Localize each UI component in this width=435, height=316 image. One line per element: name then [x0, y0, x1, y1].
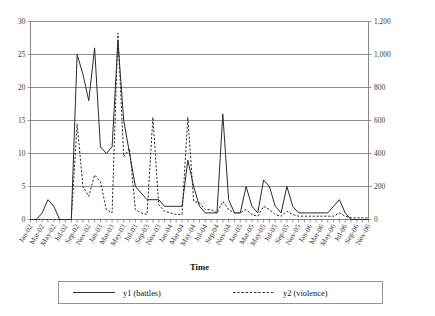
- y-right-tick-label: 400: [374, 149, 385, 158]
- y-left-tick-label: 15: [18, 116, 26, 125]
- y-left-tick-label: 25: [18, 50, 26, 59]
- line-chart: 05101520253002004006008001,0001,200Jan-0…: [0, 0, 435, 316]
- x-axis-title: Time: [190, 262, 209, 272]
- y-left-tick-label: 20: [18, 83, 26, 92]
- series-y1-battles: [31, 41, 369, 219]
- y-left-tick-label: 5: [22, 182, 26, 191]
- series-y2-violence: [31, 33, 369, 219]
- y-right-tick-label: 1,000: [374, 50, 391, 59]
- y-left-tick-label: 0: [22, 215, 26, 224]
- y-right-tick-label: 1,200: [374, 17, 391, 26]
- y-right-tick-label: 200: [374, 182, 385, 191]
- y-right-tick-label: 600: [374, 116, 385, 125]
- y-right-tick-label: 800: [374, 83, 385, 92]
- chart-container: 05101520253002004006008001,0001,200Jan-0…: [0, 0, 435, 316]
- legend-label-1: y1 (battles): [123, 289, 161, 298]
- legend-label-2: y2 (violence): [283, 289, 328, 298]
- y-right-tick-label: 0: [374, 215, 378, 224]
- y-left-tick-label: 10: [18, 149, 26, 158]
- y-left-tick-label: 30: [18, 17, 26, 26]
